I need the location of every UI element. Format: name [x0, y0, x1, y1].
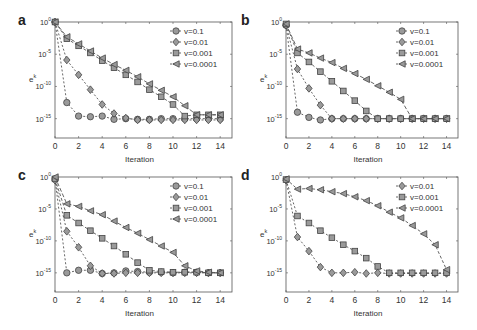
svg-text:12: 12 — [419, 295, 429, 305]
svg-text:10: 10 — [396, 295, 406, 305]
panel-a: a 0246810121410010-510-1010-15ekIteratio… — [0, 0, 238, 165]
svg-text:10-10: 10-10 — [35, 80, 51, 91]
svg-text:2: 2 — [307, 295, 312, 305]
svg-text:0: 0 — [53, 141, 58, 151]
svg-text:6: 6 — [123, 141, 128, 151]
svg-text:100: 100 — [40, 16, 51, 27]
svg-text:10-10: 10-10 — [266, 80, 282, 91]
svg-text:12: 12 — [192, 295, 202, 305]
chart-c: 0246810121410010-510-1010-15ekIterationv… — [0, 165, 238, 330]
svg-text:v=0.1: v=0.1 — [184, 27, 204, 36]
svg-text:10-15: 10-15 — [35, 267, 51, 278]
svg-text:10: 10 — [168, 295, 178, 305]
svg-text:v=0.0001: v=0.0001 — [184, 60, 218, 69]
svg-text:0: 0 — [284, 295, 289, 305]
svg-text:4: 4 — [329, 141, 334, 151]
svg-text:v=0.01: v=0.01 — [410, 182, 435, 191]
svg-text:v=0.001: v=0.001 — [184, 49, 213, 58]
svg-text:10-5: 10-5 — [269, 203, 282, 214]
svg-text:v=0.001: v=0.001 — [410, 193, 439, 202]
svg-text:v=0.01: v=0.01 — [184, 193, 209, 202]
svg-text:0: 0 — [53, 295, 58, 305]
svg-text:10-5: 10-5 — [38, 203, 51, 214]
svg-text:10-15: 10-15 — [266, 113, 282, 124]
svg-text:100: 100 — [40, 171, 51, 182]
svg-text:2: 2 — [307, 141, 312, 151]
svg-text:2: 2 — [76, 141, 81, 151]
svg-text:14: 14 — [442, 141, 452, 151]
svg-text:Iteration: Iteration — [354, 155, 383, 164]
svg-text:6: 6 — [123, 295, 128, 305]
svg-text:100: 100 — [271, 171, 282, 182]
svg-text:4: 4 — [329, 295, 334, 305]
svg-text:4: 4 — [100, 141, 105, 151]
svg-text:8: 8 — [147, 295, 152, 305]
panel-b: b 0246810121410010-510-1010-15ekIteratio… — [239, 0, 477, 165]
svg-text:8: 8 — [375, 295, 380, 305]
svg-text:v=0.1: v=0.1 — [184, 182, 204, 191]
chart-a: 0246810121410010-510-1010-15ekIterationv… — [0, 0, 238, 165]
panel-d: d 0246810121410010-510-1010-15ekIteratio… — [239, 165, 477, 330]
svg-text:8: 8 — [375, 141, 380, 151]
svg-text:12: 12 — [419, 141, 429, 151]
svg-text:10-10: 10-10 — [35, 235, 51, 246]
svg-text:10-10: 10-10 — [266, 235, 282, 246]
svg-text:Iteration: Iteration — [354, 309, 383, 318]
svg-text:6: 6 — [352, 295, 357, 305]
svg-text:14: 14 — [215, 141, 225, 151]
panel-c: c 0246810121410010-510-1010-15ekIteratio… — [0, 165, 238, 330]
svg-text:Iteration: Iteration — [125, 155, 154, 164]
svg-text:10-5: 10-5 — [38, 48, 51, 59]
svg-text:0: 0 — [284, 141, 289, 151]
svg-text:8: 8 — [147, 141, 152, 151]
svg-text:14: 14 — [442, 295, 452, 305]
svg-text:Iteration: Iteration — [125, 309, 154, 318]
svg-text:v=0.001: v=0.001 — [184, 204, 213, 213]
svg-text:14: 14 — [215, 295, 225, 305]
svg-text:10-15: 10-15 — [35, 113, 51, 124]
svg-text:10-15: 10-15 — [266, 267, 282, 278]
svg-text:v=0.0001: v=0.0001 — [410, 204, 444, 213]
chart-b: 0246810121410010-510-1010-15ekIterationv… — [239, 0, 477, 165]
svg-text:10-5: 10-5 — [269, 48, 282, 59]
svg-text:4: 4 — [100, 295, 105, 305]
svg-text:v=0.0001: v=0.0001 — [410, 60, 444, 69]
svg-text:2: 2 — [76, 295, 81, 305]
svg-text:v=0.0001: v=0.0001 — [184, 215, 218, 224]
svg-text:6: 6 — [352, 141, 357, 151]
chart-d: 0246810121410010-510-1010-15ekIterationv… — [239, 165, 477, 330]
svg-text:10: 10 — [168, 141, 178, 151]
svg-text:v=0.001: v=0.001 — [410, 49, 439, 58]
svg-text:10: 10 — [396, 141, 406, 151]
svg-text:100: 100 — [271, 16, 282, 27]
svg-text:12: 12 — [192, 141, 202, 151]
svg-text:v=0.1: v=0.1 — [410, 27, 430, 36]
svg-text:v=0.01: v=0.01 — [410, 38, 435, 47]
svg-text:v=0.01: v=0.01 — [184, 38, 209, 47]
